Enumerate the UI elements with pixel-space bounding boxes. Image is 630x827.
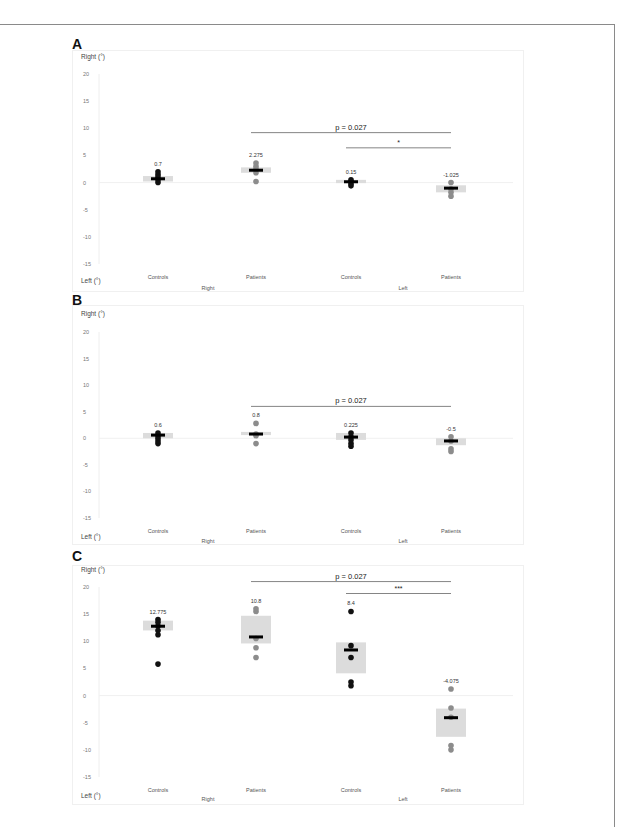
data-point — [348, 643, 354, 649]
category-label: Patients — [246, 787, 266, 793]
panel-c-plot: Right (°)20151050-5-10-1512.77510.88.4-4… — [72, 565, 524, 805]
y-tick-label: 0 — [83, 180, 86, 186]
data-point — [448, 743, 454, 749]
significance-label: *** — [394, 585, 402, 592]
median-marker — [151, 434, 165, 437]
data-point — [448, 180, 454, 186]
data-point — [253, 655, 259, 661]
y-tick-label: -15 — [83, 261, 91, 267]
category-label: Patients — [441, 787, 461, 793]
data-point — [253, 179, 259, 185]
iqr-box — [436, 709, 466, 737]
y-axis-label-left: Left (°) — [81, 533, 101, 541]
y-tick-label: 20 — [83, 584, 89, 590]
category-label: Controls — [341, 787, 362, 793]
group-label-right: Right — [202, 538, 215, 544]
median-marker — [444, 716, 458, 719]
data-point — [253, 160, 259, 166]
data-point — [448, 446, 454, 452]
y-tick-label: 15 — [83, 611, 89, 617]
y-tick-label: 20 — [83, 329, 89, 335]
y-tick-label: -10 — [83, 234, 91, 240]
median-value-label: 2.275 — [249, 152, 263, 158]
y-tick-label: -5 — [83, 462, 88, 468]
y-tick-label: 15 — [83, 356, 89, 362]
significance-label: p = 0.027 — [335, 396, 367, 405]
median-marker — [249, 635, 263, 638]
y-tick-label: 5 — [83, 665, 86, 671]
panel-b-plot: Right (°)20151050-5-10-150.60.80.225-0.5… — [72, 305, 524, 545]
y-tick-label: 0 — [83, 693, 86, 699]
y-axis-label-right: Right (°) — [81, 53, 105, 61]
y-tick-label: 0 — [83, 435, 86, 441]
group-label-right: Right — [202, 796, 215, 802]
median-marker — [151, 625, 165, 628]
y-tick-label: -15 — [83, 515, 91, 521]
panel-c-chart: Right (°)20151050-5-10-1512.77510.88.4-4… — [73, 566, 523, 804]
panel-a-plot: Right (°)20151050-5-10-150.72.2750.15-1.… — [72, 50, 524, 292]
median-value-label: 0.7 — [154, 161, 162, 167]
median-value-label: 0.225 — [344, 422, 358, 428]
significance-label: * — [397, 139, 400, 146]
category-label: Controls — [341, 274, 362, 280]
category-label: Controls — [148, 528, 169, 534]
data-point — [253, 606, 259, 612]
data-point — [448, 705, 454, 711]
median-marker — [249, 169, 263, 172]
category-label: Controls — [341, 528, 362, 534]
data-point — [253, 645, 259, 651]
y-axis-label-left: Left (°) — [81, 792, 101, 800]
group-label-left: Left — [398, 538, 408, 544]
panel-label-c: C — [72, 548, 82, 564]
data-point — [348, 609, 354, 615]
figure-caption — [0, 822, 630, 827]
median-value-label: 0.8 — [252, 412, 260, 418]
figure-frame-right — [614, 24, 615, 827]
median-value-label: 10.8 — [251, 598, 262, 604]
y-tick-label: 20 — [83, 71, 89, 77]
data-point — [155, 661, 161, 667]
y-tick-label: 10 — [83, 125, 89, 131]
group-label-left: Left — [398, 285, 408, 291]
median-marker — [249, 433, 263, 436]
median-value-label: -4.075 — [443, 678, 459, 684]
y-tick-label: 10 — [83, 382, 89, 388]
category-label: Controls — [148, 274, 169, 280]
median-value-label: -0.5 — [446, 426, 455, 432]
data-point — [253, 441, 259, 447]
group-label-left: Left — [398, 796, 408, 802]
y-tick-label: 10 — [83, 638, 89, 644]
category-label: Controls — [148, 787, 169, 793]
y-axis-label-right: Right (°) — [81, 566, 105, 574]
data-point — [448, 686, 454, 692]
y-tick-label: 5 — [83, 152, 86, 158]
data-point — [348, 430, 354, 436]
category-label: Patients — [246, 274, 266, 280]
y-tick-label: -10 — [83, 488, 91, 494]
significance-label: p = 0.027 — [335, 123, 367, 132]
figure-frame-top — [0, 24, 615, 25]
y-tick-label: -10 — [83, 747, 91, 753]
median-value-label: 0.15 — [346, 169, 357, 175]
y-tick-label: -15 — [83, 774, 91, 780]
y-axis-label-right: Right (°) — [81, 310, 105, 318]
group-label-right: Right — [202, 285, 215, 291]
median-marker — [344, 648, 358, 651]
data-point — [253, 421, 259, 427]
category-label: Patients — [441, 528, 461, 534]
median-value-label: -1.025 — [443, 172, 459, 178]
y-tick-label: -5 — [83, 720, 88, 726]
median-marker — [444, 187, 458, 190]
median-value-label: 0.6 — [154, 422, 162, 428]
median-marker — [344, 180, 358, 183]
y-tick-label: 15 — [83, 98, 89, 104]
median-marker — [444, 439, 458, 442]
panel-a-chart: Right (°)20151050-5-10-150.72.2750.15-1.… — [73, 51, 523, 291]
significance-label: p = 0.027 — [335, 572, 367, 581]
panel-b-chart: Right (°)20151050-5-10-150.60.80.225-0.5… — [73, 306, 523, 544]
category-label: Patients — [441, 274, 461, 280]
median-marker — [344, 436, 358, 439]
median-value-label: 8.4 — [347, 600, 355, 606]
data-point — [448, 434, 454, 440]
y-tick-label: -5 — [83, 207, 88, 213]
